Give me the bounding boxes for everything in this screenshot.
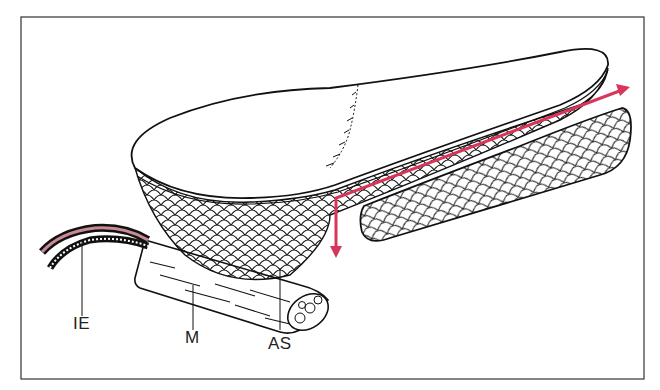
illustration-figure: IE M AS: [0, 0, 660, 390]
nerve-bundle: [42, 228, 148, 268]
label-as: AS: [268, 334, 292, 354]
label-m: M: [185, 328, 200, 348]
illustration-drawing: [0, 0, 660, 390]
label-ie: IE: [73, 314, 90, 334]
